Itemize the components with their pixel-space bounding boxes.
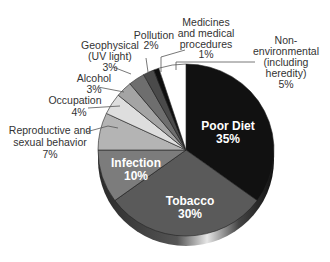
svg-text:4%: 4% (71, 106, 86, 118)
label-infection: Infection (111, 156, 161, 170)
label-reproductive: Reproductive and (9, 124, 91, 136)
pie-chart: Reproductive and sexual behavior 7% Occu… (0, 0, 330, 262)
svg-text:35%: 35% (216, 132, 240, 146)
svg-text:1%: 1% (198, 48, 213, 60)
svg-text:30%: 30% (178, 207, 202, 221)
svg-text:2%: 2% (143, 39, 158, 51)
svg-text:7%: 7% (42, 148, 57, 160)
svg-text:3%: 3% (86, 83, 101, 95)
label-poor-diet: Poor Diet (201, 119, 254, 133)
label-tobacco: Tobacco (166, 194, 214, 208)
label-occupation: Occupation (48, 94, 101, 106)
svg-text:3%: 3% (102, 61, 117, 73)
svg-text:sexual behavior: sexual behavior (13, 136, 87, 148)
svg-text:10%: 10% (124, 169, 148, 183)
svg-text:5%: 5% (278, 78, 293, 90)
